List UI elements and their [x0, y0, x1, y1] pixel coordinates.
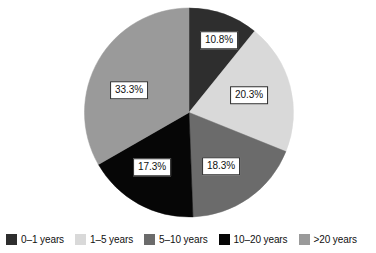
pie-slice-value-label: 33.3%	[110, 81, 148, 99]
legend-swatch-icon	[144, 234, 155, 245]
chart-legend: 0–1 years1–5 years5–10 years10–20 years>…	[0, 226, 376, 253]
pie-slice-value-label: 17.3%	[133, 158, 171, 176]
legend-swatch-icon	[75, 234, 86, 245]
legend-swatch-icon	[219, 234, 230, 245]
legend-item-label: >20 years	[314, 235, 357, 245]
pie-chart-svg	[0, 0, 376, 226]
pie-slice-value-label: 10.8%	[200, 31, 238, 49]
legend-item[interactable]: 10–20 years	[219, 234, 288, 245]
legend-item[interactable]: 0–1 years	[6, 234, 64, 245]
legend-item[interactable]: 1–5 years	[75, 234, 133, 245]
pie-chart-figure: 10.8%20.3%18.3%17.3%33.3% 0–1 years1–5 y…	[0, 0, 376, 253]
pie-slice-value-label: 20.3%	[230, 86, 268, 104]
pie-plot-area: 10.8%20.3%18.3%17.3%33.3%	[0, 0, 376, 226]
legend-item[interactable]: 5–10 years	[144, 234, 207, 245]
legend-item[interactable]: >20 years	[299, 234, 357, 245]
pie-slice-group	[84, 8, 293, 217]
pie-slice-value-label: 18.3%	[202, 157, 240, 175]
legend-swatch-icon	[6, 234, 17, 245]
legend-item-label: 0–1 years	[21, 235, 64, 245]
legend-item-label: 10–20 years	[234, 235, 288, 245]
legend-swatch-icon	[299, 234, 310, 245]
legend-item-label: 1–5 years	[90, 235, 133, 245]
legend-item-label: 5–10 years	[159, 235, 207, 245]
